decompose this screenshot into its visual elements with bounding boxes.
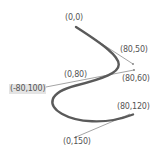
- point-label-c1: (80,50): [120, 45, 148, 55]
- point-label-p2: (80,120): [117, 102, 150, 112]
- control-point-marker: [132, 63, 134, 65]
- point-label-p0: (0,0): [65, 13, 83, 23]
- point-label-c4: (0,150): [63, 137, 91, 147]
- control-point-marker: [133, 69, 135, 71]
- point-label-c2: (80,60): [122, 74, 150, 84]
- point-label-p1: (0,80): [64, 70, 87, 80]
- point-label-c3: (-80,100): [9, 84, 46, 94]
